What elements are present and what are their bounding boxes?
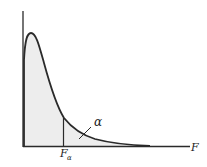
- alpha-label: α: [94, 115, 102, 129]
- x-axis-label: F: [190, 141, 199, 154]
- critical-value-subscript: α: [67, 154, 72, 162]
- f-distribution-chart: α F F α: [0, 0, 207, 167]
- shaded-area: [24, 33, 140, 146]
